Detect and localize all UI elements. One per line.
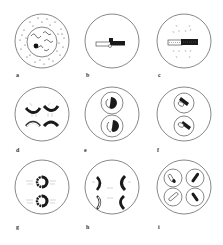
- panel-h: h: [85, 160, 139, 230]
- panel-b: b: [85, 14, 139, 78]
- chromatids: [26, 106, 58, 126]
- chromatin-threads: [31, 32, 53, 51]
- panel-i: i: [157, 160, 211, 230]
- panel-label: f: [157, 147, 160, 153]
- daughter-nucleus-bottom: [101, 115, 123, 137]
- panel-label: e: [84, 147, 87, 153]
- spindle-fibres: [26, 181, 56, 203]
- haploid-cell-top-left: [164, 169, 182, 187]
- panel-label: h: [86, 224, 90, 230]
- daughter-nucleus-top: [174, 93, 194, 113]
- panel-label: g: [16, 224, 19, 230]
- daughter-nucleus-bottom: [174, 116, 194, 136]
- panel-label: b: [86, 72, 90, 78]
- cell-membrane: [85, 160, 139, 214]
- chromosome-rosette-top: [37, 177, 47, 187]
- cell-membrane: [157, 160, 211, 214]
- panel-f: f: [157, 87, 211, 153]
- daughter-nucleus-top: [101, 92, 123, 114]
- panel-label: i: [158, 224, 160, 230]
- panel-g: g: [15, 160, 69, 230]
- panel-label: c: [158, 72, 161, 78]
- panel-label: d: [16, 147, 20, 153]
- haploid-cell-top-right: [186, 169, 204, 187]
- haploid-cell-bottom-left: [164, 188, 182, 206]
- panel-label: a: [16, 72, 19, 78]
- panel-d: d: [15, 87, 69, 153]
- chromatid-groups: [97, 176, 125, 209]
- cell-membrane: [157, 87, 211, 141]
- meiosis-figure: a b c: [0, 0, 223, 245]
- chromosome-rosette-bottom: [37, 196, 47, 206]
- nucleolus: [34, 44, 39, 49]
- cytoplasm-granules: [19, 17, 64, 64]
- panel-c: c: [157, 14, 211, 78]
- bivalent-chromosome: [168, 39, 198, 45]
- haploid-cell-bottom-right: [186, 188, 204, 206]
- panel-e: e: [84, 87, 139, 153]
- bivalent-chromosome: [96, 38, 125, 48]
- panel-a: a: [15, 14, 69, 78]
- cell-membrane: [15, 87, 69, 141]
